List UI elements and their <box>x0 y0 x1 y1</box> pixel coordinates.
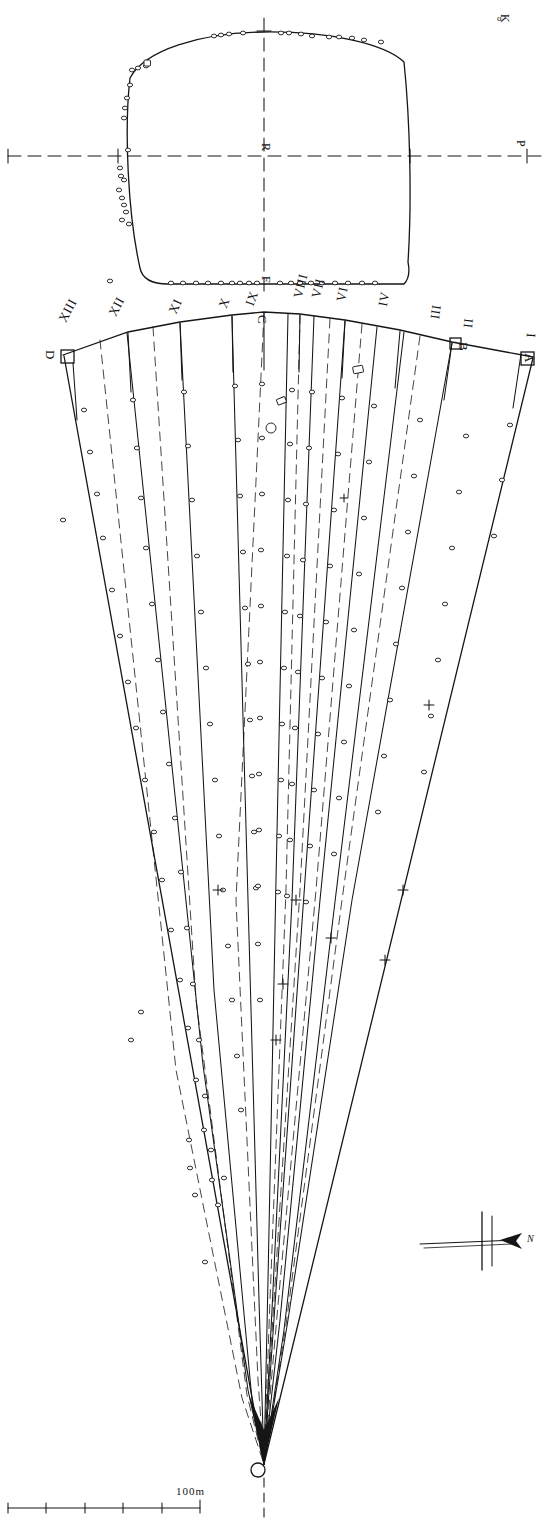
scale-bar-label: 100m <box>176 1486 205 1497</box>
enclosure-features <box>107 31 383 285</box>
sector-label-IV: IV <box>376 291 391 308</box>
axis-label-F: F <box>260 276 272 283</box>
cross-markers <box>213 494 434 1045</box>
corner-label-A: A <box>523 353 536 362</box>
north-arrow-graphic <box>420 1212 522 1270</box>
sector-label-II: II <box>461 317 475 328</box>
axis-label-P: P <box>515 140 527 147</box>
site-plan-figure: .ln { stroke:#151515; fill:none; stroke-… <box>0 0 555 1520</box>
axis-label-K-dot: o <box>497 14 502 23</box>
scale-bar-graphic <box>8 1500 200 1513</box>
sector-label-III: III <box>428 304 443 320</box>
radial-features <box>81 382 512 1207</box>
corner-label-C: C <box>256 315 269 324</box>
corner-label-D: D <box>44 350 57 359</box>
radial-alignment-lines <box>64 313 533 1464</box>
plan-drawing: .ln { stroke:#151515; fill:none; stroke-… <box>0 0 555 1520</box>
axis-label-R: R <box>260 143 272 151</box>
enclosure-outline <box>127 32 410 284</box>
sector-label-VI: VI <box>334 286 350 303</box>
enclosure-axes <box>8 18 545 296</box>
north-arrow-label: N <box>527 1234 534 1244</box>
sector-label-I: I <box>524 332 537 338</box>
corner-label-B: B <box>457 342 470 351</box>
apex-marker <box>249 1395 279 1520</box>
